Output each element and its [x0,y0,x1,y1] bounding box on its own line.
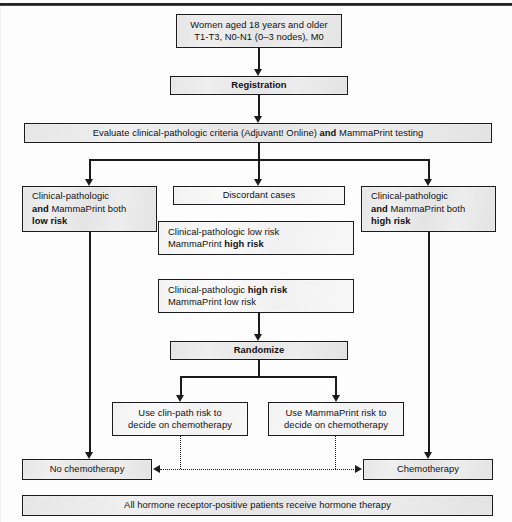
both-high-line-2-rest: MammaPrint both [388,203,465,214]
node-randomize: Randomize [170,341,348,360]
arrowhead-registration [254,69,262,76]
dotted-connector-clinpath-down [180,436,181,469]
node-chemotherapy: Chemotherapy [363,459,493,480]
figure-left-edge [0,6,1,522]
eligibility-line-1: Women aged 18 years and older [177,19,341,31]
node-both-low-risk: Clinical-pathologic and MammaPrint both … [22,186,157,232]
arrowhead-chemotherapy [424,452,432,459]
connector-evaluate-down [258,143,260,160]
node-discordant-high-low: Clinical-pathologic high risk MammaPrint… [158,279,354,313]
arrowhead-evaluate [254,116,262,123]
disc-b-line-1-bold: high risk [248,284,288,295]
use-mammaprint-line-1: Use MammaPrint risk to [269,407,403,419]
connector-discordant-randomize [258,313,260,336]
node-use-mammaprint-risk: Use MammaPrint risk to decide on chemoth… [268,402,404,436]
both-low-line-2-rest: MammaPrint both [49,203,126,214]
flowchart-figure: Women aged 18 years and older T1-T3, N0-… [0,0,512,522]
disc-a-line-1: Clinical-pathologic low risk [168,226,353,238]
discordant-label: Discordant cases [174,189,344,201]
arrowhead-use-mammaprint [332,395,340,402]
connector-split-right [428,159,430,181]
evaluate-text-part1: Evaluate clinical-pathologic criteria (A… [93,127,320,138]
connector-randomize-down [258,360,260,377]
node-evaluate: Evaluate clinical-pathologic criteria (A… [24,123,492,143]
disc-a-line-2-bold: high risk [224,238,264,249]
connector-randomize-horizontal [180,376,337,378]
eligibility-line-2: T1-T3, N0-N1 (0–3 nodes), M0 [177,31,341,43]
connector-both-low-no-chemo [89,232,91,454]
node-eligibility: Women aged 18 years and older T1-T3, N0-… [176,14,342,48]
randomize-label: Randomize [171,344,347,356]
connector-split-middle [258,159,260,181]
both-low-line-3: low risk [32,215,156,227]
node-no-chemotherapy: No chemotherapy [22,459,152,480]
arrowhead-use-clinpath [176,395,184,402]
arrowhead-no-chemotherapy [85,452,93,459]
disc-a-line-2-rest: MammaPrint [168,238,224,249]
dotted-connector-horizontal [160,469,356,470]
arrowhead-discordant [254,179,262,186]
arrowhead-both-high [424,179,432,186]
arrowhead-randomize [254,334,262,341]
registration-label: Registration [171,79,347,91]
arrowhead-dotted-no-chemotherapy [153,465,160,473]
connector-eligibility-registration [258,48,260,71]
connector-randomize-right [335,376,337,397]
evaluate-text-bold: and [320,127,337,138]
disc-b-line-1-rest: Clinical-pathologic [168,284,248,295]
both-high-line-3: high risk [371,215,495,227]
no-chemotherapy-label: No chemotherapy [23,463,151,475]
arrowhead-both-low [85,179,93,186]
node-use-clinpath-risk: Use clin-path risk to decide on chemothe… [112,402,248,436]
use-clinpath-line-1: Use clin-path risk to [113,407,247,419]
hormone-therapy-label: All hormone receptor-positive patients r… [23,499,492,511]
node-registration: Registration [170,76,348,95]
disc-b-line-2: MammaPrint low risk [168,296,353,308]
arrowhead-dotted-chemotherapy [355,465,362,473]
both-low-line-2-bold: and [32,203,49,214]
use-clinpath-line-2: decide on chemotherapy [113,419,247,431]
evaluate-text-part2: MammaPrint testing [336,127,423,138]
chemotherapy-label: Chemotherapy [364,463,492,475]
both-high-line-1: Clinical-pathologic [371,190,495,202]
connector-split-left [89,159,91,181]
connector-randomize-left [180,376,182,397]
node-discordant-low-high: Clinical-pathologic low risk MammaPrint … [158,221,354,255]
connector-registration-evaluate [258,95,260,118]
use-mammaprint-line-2: decide on chemotherapy [269,419,403,431]
node-both-high-risk: Clinical-pathologic and MammaPrint both … [361,186,496,232]
figure-top-rule [0,3,512,6]
dotted-connector-mammaprint-down [335,436,336,469]
node-hormone-therapy: All hormone receptor-positive patients r… [22,495,493,516]
connector-both-high-chemo [428,232,430,454]
both-low-line-1: Clinical-pathologic [32,190,156,202]
node-discordant-cases: Discordant cases [173,186,345,205]
both-high-line-2-bold: and [371,203,388,214]
